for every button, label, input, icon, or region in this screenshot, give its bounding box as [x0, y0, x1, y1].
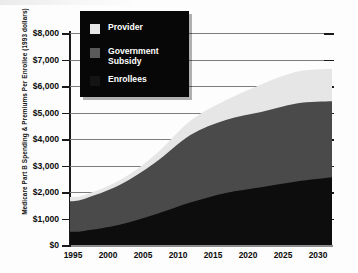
legend-swatch-government-subsidy: [90, 48, 100, 58]
x-tick-label-2025: 2025: [263, 250, 303, 260]
legend-item-provider: Provider: [90, 23, 143, 34]
x-tick-label-2020: 2020: [228, 250, 268, 260]
x-tick-label-2010: 2010: [158, 250, 198, 260]
x-tick-label-1995: 1995: [53, 250, 93, 260]
y-tick-label-7000: $7,000: [9, 55, 59, 66]
legend-swatch-provider: [90, 24, 100, 34]
y-tick-label-1000: $1,000: [9, 214, 59, 225]
y-tick-label-2000: $2,000: [9, 187, 59, 198]
x-tick-label-2015: 2015: [193, 250, 233, 260]
y-tick-label-4000: $4,000: [9, 134, 59, 145]
x-tick-label-2030: 2030: [298, 250, 338, 260]
legend-label-enrollees: Enrollees: [108, 75, 147, 85]
x-tick-label-2000: 2000: [88, 250, 128, 260]
y-tick-label-6000: $6,000: [9, 81, 59, 92]
legend-item-government-subsidy: Government Subsidy: [90, 47, 159, 66]
y-tick-label-0: $0: [9, 240, 59, 251]
legend-swatch-enrollees: [90, 76, 100, 86]
chart-legend: Provider Government Subsidy Enrollees: [80, 11, 189, 97]
legend-label-provider: Provider: [108, 23, 143, 33]
legend-item-enrollees: Enrollees: [90, 75, 147, 86]
cropped-title-artifact: [0, 0, 130, 5]
y-tick-label-5000: $5,000: [9, 108, 59, 119]
x-tick-label-2005: 2005: [123, 250, 163, 260]
y-tick-label-3000: $3,000: [9, 161, 59, 172]
stacked-area-chart: Medicare Part B Spending & Premiums Per …: [0, 0, 358, 273]
legend-label-government-subsidy: Government Subsidy: [108, 47, 159, 66]
y-tick-label-8000: $8,000: [9, 28, 59, 39]
y-tick-mark-0: [62, 245, 71, 247]
